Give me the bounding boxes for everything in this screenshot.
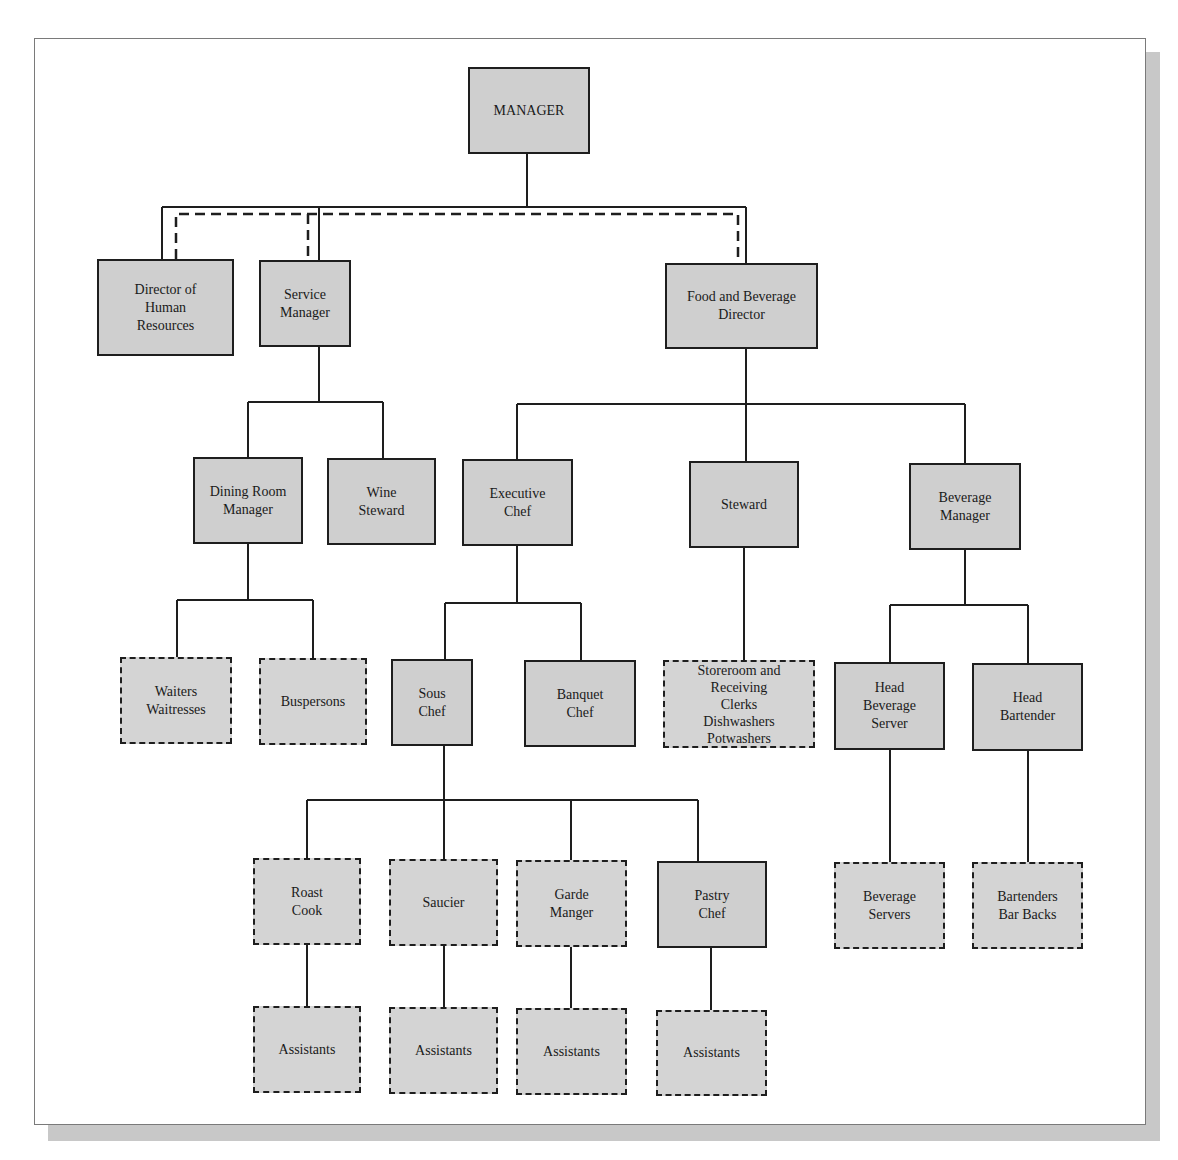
node-label: Waiters Waitresses xyxy=(146,683,206,719)
node-head-bartender: Head Bartender xyxy=(972,663,1083,751)
node-beverage-manager: Beverage Manager xyxy=(909,463,1021,550)
node-roast-assistants: Assistants xyxy=(253,1006,361,1093)
node-head-beverage-server: Head Beverage Server xyxy=(834,662,945,750)
node-sous-chef: Sous Chef xyxy=(391,659,473,746)
node-label: Sous Chef xyxy=(418,685,445,721)
node-label: Director of Human Resources xyxy=(135,281,197,335)
node-label: Executive Chef xyxy=(490,485,546,521)
node-bartenders: Bartenders Bar Backs xyxy=(972,862,1083,949)
node-steward: Steward xyxy=(689,461,799,548)
node-label: Garde Manger xyxy=(550,886,594,922)
node-storeroom: Storeroom and Receiving Clerks Dishwashe… xyxy=(663,660,815,748)
node-label: Assistants xyxy=(415,1042,472,1060)
node-pastry-chef: Pastry Chef xyxy=(657,861,767,948)
node-service-manager: Service Manager xyxy=(259,260,351,347)
node-label: Bartenders Bar Backs xyxy=(997,888,1058,924)
node-manager: MANAGER xyxy=(468,67,590,154)
node-label: Head Bartender xyxy=(1000,689,1055,725)
node-label: Saucier xyxy=(423,894,465,912)
node-saucier-assistants: Assistants xyxy=(389,1007,498,1094)
node-waiters: Waiters Waitresses xyxy=(120,657,232,744)
node-label: Pastry Chef xyxy=(695,887,730,923)
node-hr-director: Director of Human Resources xyxy=(97,259,234,356)
node-label: Beverage Manager xyxy=(939,489,992,525)
node-pastry-assistants: Assistants xyxy=(656,1010,767,1096)
node-label: Dining Room Manager xyxy=(210,483,287,519)
node-label: Assistants xyxy=(279,1041,336,1059)
node-label: Assistants xyxy=(543,1043,600,1061)
node-label: Steward xyxy=(721,496,767,514)
node-label: Food and Beverage Director xyxy=(687,288,796,324)
node-dining-room-manager: Dining Room Manager xyxy=(193,457,303,544)
node-roast-cook: Roast Cook xyxy=(253,858,361,945)
connector-lines xyxy=(0,0,1178,1160)
node-garde-assistants: Assistants xyxy=(516,1008,627,1095)
node-beverage-servers: Beverage Servers xyxy=(834,862,945,949)
node-fb-director: Food and Beverage Director xyxy=(665,263,818,349)
node-label: Assistants xyxy=(683,1044,740,1062)
node-banquet-chef: Banquet Chef xyxy=(524,660,636,747)
node-wine-steward: Wine Steward xyxy=(327,458,436,545)
node-label: Banquet Chef xyxy=(557,686,604,722)
node-label: Head Beverage Server xyxy=(863,679,916,733)
node-label: Wine Steward xyxy=(359,484,405,520)
node-garde-manger: Garde Manger xyxy=(516,860,627,947)
node-label: Roast Cook xyxy=(291,884,323,920)
node-saucier: Saucier xyxy=(389,859,498,946)
node-label: MANAGER xyxy=(494,102,565,120)
node-buspersons: Buspersons xyxy=(259,658,367,745)
node-label: Storeroom and Receiving Clerks Dishwashe… xyxy=(698,662,781,747)
node-label: Beverage Servers xyxy=(863,888,916,924)
node-executive-chef: Executive Chef xyxy=(462,459,573,546)
node-label: Buspersons xyxy=(281,693,346,711)
node-label: Service Manager xyxy=(280,286,330,322)
